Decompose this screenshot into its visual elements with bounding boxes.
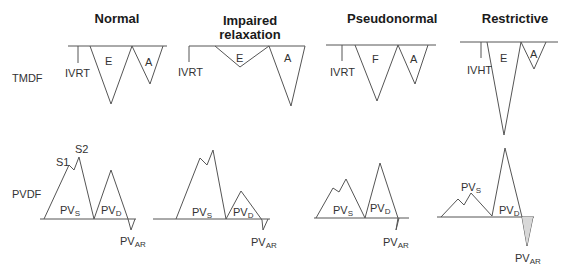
row-label-pvdf: PVDF [12, 188, 41, 200]
pv-text: PV [461, 181, 476, 193]
s1-label: S1 [56, 156, 69, 168]
normal-a-label: A [145, 56, 152, 68]
restrictive-pvdf-waveform [441, 148, 533, 246]
pseudonormal-ivrt-label: IVRT [330, 66, 355, 78]
column-title-restrictive: Restrictive [470, 12, 560, 26]
pv-text: PV [101, 204, 116, 216]
impaired-pvar-label: PVAR [251, 236, 277, 252]
restrictive-pvs-label: PVS [461, 181, 481, 197]
sub-s: S [207, 211, 212, 220]
impaired-pvd-label: PVD [233, 206, 253, 222]
column-title-impaired: Impaired relaxation [205, 14, 295, 42]
restrictive-tmdf-waveform [460, 42, 558, 135]
sub-s: S [75, 209, 80, 218]
column-title-normal: Normal [82, 12, 152, 26]
normal-pvar-label: PVAR [120, 235, 146, 251]
row-label-tmdf: TMDF [12, 72, 43, 84]
restrictive-e-label: E [500, 52, 507, 64]
pv-text: PV [233, 206, 248, 218]
pv-text: PV [120, 235, 135, 247]
pv-text: PV [515, 252, 530, 264]
normal-e-label: E [105, 55, 112, 67]
impaired-e-label: E [236, 52, 243, 64]
s2-label: S2 [75, 143, 88, 155]
pv-text: PV [60, 204, 75, 216]
normal-pvd-label: PVD [101, 204, 121, 220]
pv-text: PV [370, 202, 385, 214]
pseudonormal-e-label: F [372, 53, 379, 65]
pseudonormal-pvs-label: PVS [333, 204, 353, 220]
pv-text: PV [192, 206, 207, 218]
pseudonormal-pvdf-waveform [316, 163, 399, 230]
restrictive-ivrt-label: IVHT [467, 64, 492, 76]
sub-ar: AR [398, 241, 409, 250]
sub-d: D [248, 211, 254, 220]
column-title-pseudonormal: Pseudonormal [347, 12, 437, 26]
restrictive-a-label: A [530, 48, 537, 60]
pseudonormal-pvar-label: PVAR [383, 236, 409, 252]
sub-ar: AR [266, 241, 277, 250]
pv-text: PV [383, 236, 398, 248]
pv-text: PV [251, 236, 266, 248]
pseudonormal-a-label: A [410, 53, 417, 65]
impaired-a-label: A [284, 52, 291, 64]
normal-pvs-label: PVS [60, 204, 80, 220]
sub-d: D [514, 209, 520, 218]
sub-s: S [348, 209, 353, 218]
pv-text: PV [499, 204, 514, 216]
impaired-ivrt-label: IVRT [178, 66, 203, 78]
sub-ar: AR [530, 257, 541, 266]
sub-s: S [476, 186, 481, 195]
impaired-pvdf-waveform [176, 150, 268, 230]
sub-d: D [116, 209, 122, 218]
normal-ivrt-label: IVRT [65, 67, 90, 79]
pv-text: PV [333, 204, 348, 216]
restrictive-pvar-label: PVAR [515, 252, 541, 268]
restrictive-pvd-label: PVD [499, 204, 519, 220]
impaired-pvs-label: PVS [192, 206, 212, 222]
pseudonormal-pvd-label: PVD [370, 202, 390, 218]
sub-ar: AR [135, 240, 146, 249]
restrictive-ar-shaded [522, 217, 533, 246]
sub-d: D [385, 207, 391, 216]
